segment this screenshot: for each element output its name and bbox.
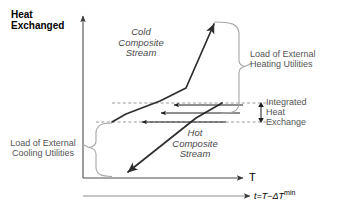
hot-composite-stream-label: HotCompositeStream	[157, 128, 233, 160]
heating-utilities-label: Load of ExternalHeating Utilities	[250, 49, 338, 69]
composite-curve-figure: HeatExchanged T t=T−ΔTmin ColdCompositeS…	[0, 0, 340, 217]
x-axis-secondary-label-main: t=T−ΔT	[254, 191, 284, 201]
cooling-utilities-label: Load of ExternalCooling Utilities	[0, 138, 86, 158]
integrated-exchange-double-arrow	[258, 102, 264, 123]
cold-composite-stream-label: ColdCompositeStream	[104, 27, 178, 59]
heating-utilities-brace	[214, 22, 245, 114]
cooling-utilities-brace	[89, 123, 112, 177]
x-axis-secondary-label: t=T−ΔTmin	[254, 191, 295, 201]
x-axis-secondary-label-sup: min	[284, 189, 295, 196]
integrated-heat-exchange-label: IntegratedHeatExchange	[266, 97, 338, 127]
x-axis-label: T	[249, 171, 256, 183]
y-axis-label: HeatExchanged	[11, 9, 64, 31]
